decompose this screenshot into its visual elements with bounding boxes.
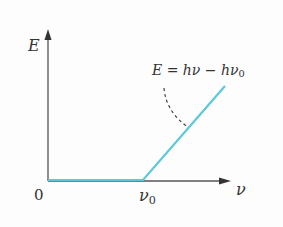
origin-label: 0 xyxy=(34,188,44,203)
y-axis-label: E xyxy=(28,38,40,54)
formula-label: E = hν − hν0 xyxy=(152,63,245,79)
energy-curve xyxy=(48,86,225,180)
formula-pointer xyxy=(164,88,188,127)
photoelectric-energy-diagram: E ν 0 ν0 E = hν − hν0 xyxy=(0,0,283,227)
y-axis-arrow-icon xyxy=(45,29,52,40)
x-axis-arrow-icon xyxy=(219,178,231,185)
threshold-label: ν0 xyxy=(139,188,156,206)
x-axis-label: ν xyxy=(236,182,246,198)
